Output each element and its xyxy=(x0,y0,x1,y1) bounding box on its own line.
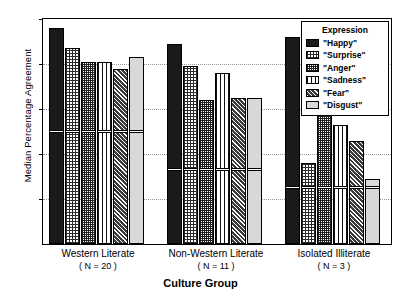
legend-item-happy: "Happy" xyxy=(306,37,384,48)
tickmark-20 xyxy=(39,199,43,200)
legend-label-happy: "Happy" xyxy=(323,38,357,48)
bar-western-surprise xyxy=(65,48,80,244)
legend-label-surprise: "Surprise" xyxy=(323,50,366,60)
tickmark-60 xyxy=(39,109,43,110)
bar-isolated-surprise xyxy=(301,163,316,244)
bar-western-happy xyxy=(49,28,64,244)
legend-swatch-happy-icon xyxy=(306,39,319,47)
legend-swatch-anger-icon xyxy=(306,64,319,72)
tickmark-40 xyxy=(39,154,43,155)
bar-nonwestern-happy xyxy=(167,44,182,244)
x-axis-title: Culture Group xyxy=(0,277,401,289)
legend-label-sadness: "Sadness" xyxy=(323,75,366,85)
legend-swatch-surprise-icon xyxy=(306,51,319,59)
bar-western-fear xyxy=(113,69,128,245)
reference-line xyxy=(350,186,363,189)
reference-line xyxy=(248,168,261,171)
legend-swatch-fear-icon xyxy=(306,89,319,97)
legend-item-disgust: "Disgust" xyxy=(306,100,384,111)
legend-item-anger: "Anger" xyxy=(306,62,384,73)
x-group-label-non-western: Non-Western Literate ( N = 11 ) xyxy=(166,248,266,272)
x-group-label-isolated: Isolated Illiterate ( N = 3 ) xyxy=(284,248,384,272)
y-axis-title: Median Percentage Agreement xyxy=(22,26,33,206)
reference-line xyxy=(50,130,63,133)
reference-line xyxy=(216,168,229,171)
reference-line xyxy=(232,168,245,171)
bar-western-disgust xyxy=(129,57,144,244)
tickmark-80 xyxy=(39,64,43,65)
bar-nonwestern-surprise xyxy=(183,66,198,244)
legend-title: Expression xyxy=(306,25,384,35)
reference-line xyxy=(98,130,111,133)
x-group-name-isolated: Isolated Illiterate xyxy=(284,248,384,260)
legend: Expression "Happy" "Surprise" "Anger" "S… xyxy=(301,21,389,116)
reference-line xyxy=(130,130,143,133)
x-group-n-non-western: ( N = 11 ) xyxy=(166,260,266,272)
bar-western-sadness xyxy=(97,62,112,244)
legend-label-disgust: "Disgust" xyxy=(323,100,362,110)
legend-swatch-sadness-icon xyxy=(306,76,319,84)
bar-chart: Median Percentage Agreement 100 80 60 40… xyxy=(0,0,401,302)
reference-line xyxy=(318,186,331,189)
legend-item-fear: "Fear" xyxy=(306,87,384,98)
reference-line xyxy=(168,168,181,171)
x-group-name-western: Western Literate xyxy=(48,248,148,260)
legend-item-sadness: "Sadness" xyxy=(306,75,384,86)
bar-group-western-literate xyxy=(49,19,149,244)
reference-line xyxy=(82,130,95,133)
bar-isolated-sadness xyxy=(333,125,348,244)
bar-nonwestern-anger xyxy=(199,100,214,244)
x-group-label-western: Western Literate ( N = 20 ) xyxy=(48,248,148,272)
bar-nonwestern-fear xyxy=(231,98,246,244)
reference-line xyxy=(184,168,197,171)
reference-line xyxy=(200,168,213,171)
x-group-n-isolated: ( N = 3 ) xyxy=(284,260,384,272)
bar-group-non-western-literate xyxy=(167,19,267,244)
legend-item-surprise: "Surprise" xyxy=(306,50,384,61)
x-group-n-western: ( N = 20 ) xyxy=(48,260,148,272)
reference-line xyxy=(302,186,315,189)
tickmark-100 xyxy=(39,19,43,20)
bar-nonwestern-sadness xyxy=(215,73,230,244)
legend-label-anger: "Anger" xyxy=(323,63,356,73)
legend-swatch-disgust-icon xyxy=(306,101,319,109)
plot-area: Expression "Happy" "Surprise" "Anger" "S… xyxy=(42,18,392,245)
bar-isolated-anger xyxy=(317,114,332,245)
reference-line xyxy=(366,186,379,189)
reference-line xyxy=(286,186,299,189)
bar-isolated-happy xyxy=(285,37,300,244)
bar-western-anger xyxy=(81,62,96,244)
legend-label-fear: "Fear" xyxy=(323,88,349,98)
bar-isolated-disgust xyxy=(365,179,380,244)
x-group-name-non-western: Non-Western Literate xyxy=(166,248,266,260)
reference-line xyxy=(66,130,79,133)
reference-line xyxy=(114,130,127,133)
bar-isolated-fear xyxy=(349,141,364,245)
bar-nonwestern-disgust xyxy=(247,98,262,244)
reference-line xyxy=(334,186,347,189)
